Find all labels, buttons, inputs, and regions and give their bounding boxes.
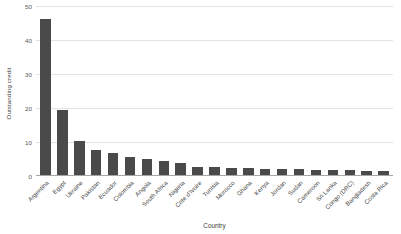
- y-axis-tick-label: 20: [25, 105, 32, 112]
- y-axis-tick-label: 50: [25, 3, 32, 10]
- bar-slot: [274, 6, 291, 175]
- x-tick-slot: Tunisia: [206, 178, 223, 224]
- x-axis-tick-labels: ArgentinaEgyptUkrainePakistanEcuadorColo…: [36, 178, 393, 224]
- y-axis-tick-label: 30: [25, 71, 32, 78]
- y-axis-tick-labels: 01020304050: [16, 0, 34, 186]
- x-tick-slot: Costa Rica: [375, 178, 392, 224]
- bar: [125, 157, 135, 175]
- bar-slot: [54, 6, 71, 175]
- bar-slot: [257, 6, 274, 175]
- bar: [226, 168, 236, 175]
- x-tick-slot: Cote d'Ivoire: [189, 178, 206, 224]
- y-axis-tick-label: 10: [25, 139, 32, 146]
- bar-slot: [155, 6, 172, 175]
- x-tick-slot: Ghana: [240, 178, 257, 224]
- bar-slot: [172, 6, 189, 175]
- y-axis-tick-label: 40: [25, 37, 32, 44]
- x-tick-slot: Cameroon: [308, 178, 325, 224]
- bar: [260, 169, 270, 175]
- bar-slot: [37, 6, 54, 175]
- bar: [142, 159, 152, 175]
- bar: [57, 110, 67, 175]
- bar-slot: [324, 6, 341, 175]
- bar-slot: [189, 6, 206, 175]
- x-tick-slot: Morocco: [223, 178, 240, 224]
- bar-slot: [308, 6, 325, 175]
- bar: [345, 170, 355, 175]
- x-tick-slot: Colombia: [122, 178, 139, 224]
- bar: [159, 161, 169, 175]
- bar: [243, 168, 253, 175]
- bar-series: [36, 6, 393, 175]
- bar-slot: [291, 6, 308, 175]
- bar-slot: [240, 6, 257, 175]
- x-tick-slot: Ukraine: [71, 178, 88, 224]
- bar-slot: [206, 6, 223, 175]
- x-tick-slot: Kenya: [257, 178, 274, 224]
- bar-slot: [122, 6, 139, 175]
- bar: [91, 150, 101, 176]
- bar-slot: [375, 6, 392, 175]
- bar: [40, 19, 50, 175]
- bar-slot: [223, 6, 240, 175]
- x-tick-slot: Jordan: [274, 178, 291, 224]
- bar-slot: [105, 6, 122, 175]
- bar: [192, 167, 202, 176]
- bar: [361, 171, 371, 175]
- x-axis-line: [36, 175, 393, 176]
- y-axis-title-label: Outstanding credit: [5, 67, 12, 119]
- plot-area: [36, 6, 393, 176]
- x-tick-slot: Ecuador: [105, 178, 122, 224]
- bar-slot: [138, 6, 155, 175]
- x-tick-slot: Egypt: [54, 178, 71, 224]
- x-tick-slot: Argentina: [37, 178, 54, 224]
- bar-slot: [88, 6, 105, 175]
- x-axis-title: Country: [36, 222, 393, 229]
- x-tick-slot: Pakistan: [88, 178, 105, 224]
- bar: [277, 169, 287, 175]
- y-axis-tick-label: 0: [29, 173, 32, 180]
- bar: [175, 163, 185, 175]
- bar: [108, 153, 118, 175]
- y-axis-title: Outstanding credit: [0, 0, 16, 186]
- bar: [378, 171, 388, 175]
- bar-slot: [341, 6, 358, 175]
- bar: [311, 170, 321, 175]
- bar-slot: [71, 6, 88, 175]
- bar: [209, 167, 219, 175]
- bar: [328, 170, 338, 175]
- bar-chart: Outstanding credit 01020304050 Argentina…: [0, 0, 401, 234]
- bar-slot: [358, 6, 375, 175]
- bar: [74, 141, 84, 175]
- bar: [294, 169, 304, 175]
- x-tick-slot: South Africa: [155, 178, 172, 224]
